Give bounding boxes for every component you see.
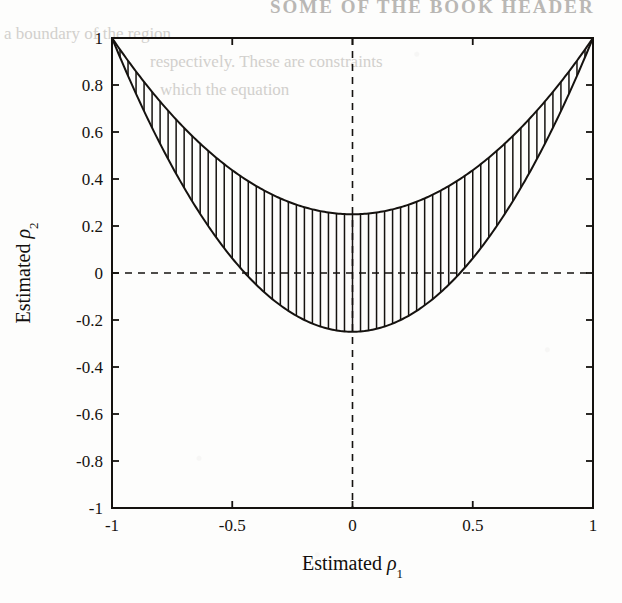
x-axis-ticks: -1-0.500.51 (105, 38, 597, 535)
y-tick-label: 0.4 (82, 170, 104, 189)
x-tick-label: 0.5 (462, 516, 483, 535)
x-tick-label: 0 (348, 516, 357, 535)
x-axis-title: Estimated ρ1 (302, 552, 403, 581)
x-tick-label: -1 (105, 516, 119, 535)
scanned-page: SOME OF THE BOOK HEADER a boundary of th… (0, 0, 622, 603)
y-axis-title: Estimated ρ2 (12, 222, 41, 323)
y-tick-label: 0.2 (82, 217, 103, 236)
y-tick-label: -0.2 (76, 311, 103, 330)
y-tick-label: -0.6 (76, 405, 103, 424)
y-tick-label: -0.4 (76, 358, 103, 377)
y-tick-label: 0.8 (82, 76, 103, 95)
y-tick-label: 1 (95, 29, 104, 48)
y-tick-label: -0.8 (76, 452, 103, 471)
x-tick-label: -0.5 (219, 516, 246, 535)
x-tick-label: 1 (589, 516, 598, 535)
y-tick-label: -1 (89, 499, 103, 518)
y-tick-label: 0.6 (82, 123, 103, 142)
y-tick-label: 0 (95, 264, 104, 283)
chart-figure: -1-0.500.51 -1-0.8-0.6-0.4-0.200.20.40.6… (0, 0, 622, 603)
